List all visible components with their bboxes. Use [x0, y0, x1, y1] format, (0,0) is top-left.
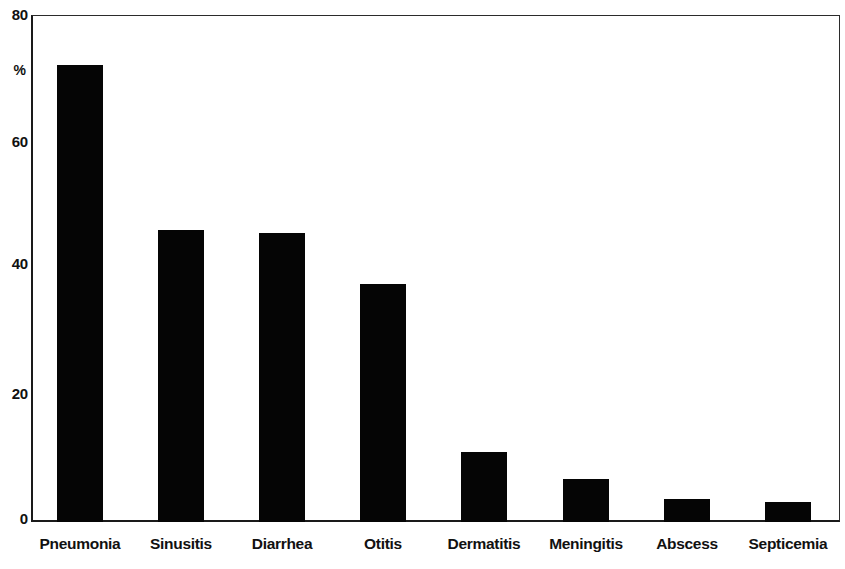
- x-tick-label-septicemia: Septicemia: [749, 535, 828, 552]
- bar-series: [0, 0, 845, 569]
- x-tick-label-diarrhea: Diarrhea: [252, 535, 313, 552]
- bar-septicemia: [765, 502, 811, 522]
- bar-meningitis: [563, 479, 609, 522]
- x-tick-label-pneumonia: Pneumonia: [40, 535, 121, 552]
- x-axis: Pneumonia Sinusitis Diarrhea Otitis Derm…: [0, 535, 845, 569]
- bar-sinusitis: [158, 230, 204, 522]
- bar-diarrhea: [259, 233, 305, 522]
- bar-otitis: [360, 284, 406, 522]
- bar-chart: 80 % 60 40 20 0 Pneumonia Sinusitis Diar…: [0, 0, 845, 569]
- bar-dermatitis: [461, 452, 507, 522]
- x-tick-label-sinusitis: Sinusitis: [150, 535, 212, 552]
- x-tick-label-dermatitis: Dermatitis: [448, 535, 521, 552]
- x-tick-label-otitis: Otitis: [364, 535, 402, 552]
- x-tick-label-abscess: Abscess: [656, 535, 718, 552]
- bar-abscess: [664, 499, 710, 522]
- x-tick-label-meningitis: Meningitis: [549, 535, 623, 552]
- bar-pneumonia: [57, 65, 103, 522]
